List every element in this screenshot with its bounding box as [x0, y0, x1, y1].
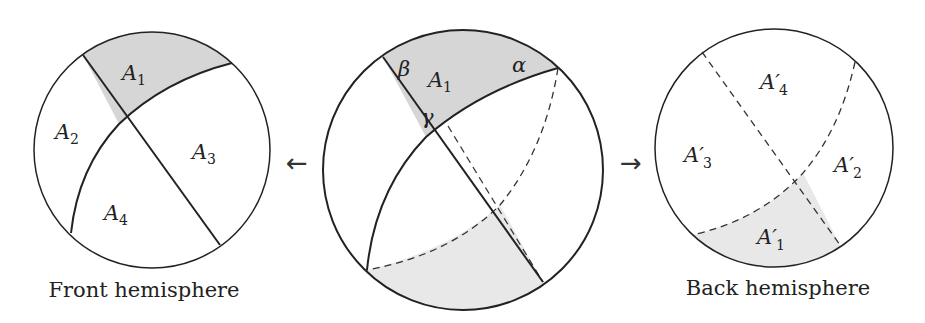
angle-beta-label: β [397, 57, 410, 81]
svg-text:2: 2 [70, 131, 79, 147]
svg-text:A′: A′ [832, 153, 854, 177]
svg-text:A′: A′ [755, 225, 777, 249]
svg-text:A: A [53, 120, 70, 144]
arrow-right-icon: → [620, 148, 642, 178]
hemisphere-diagram: A 1 A 2 A 3 A 4 Front hemisphere ← β [0, 0, 925, 323]
front-label-a3: A 3 [190, 140, 216, 167]
svg-text:A: A [190, 140, 207, 164]
back-label-a2: A′ 2 [832, 153, 862, 181]
svg-text:2: 2 [853, 165, 862, 181]
svg-text:A: A [102, 201, 119, 225]
sphere-back-region-shading [350, 205, 543, 320]
arrow-left-icon: ← [286, 148, 308, 178]
back-label-a4: A′ 4 [758, 70, 788, 98]
back-label-a3: A′ 3 [682, 143, 712, 171]
svg-text:A′: A′ [682, 143, 704, 167]
front-label-a4: A 4 [102, 201, 128, 228]
front-hemisphere-caption: Front hemisphere [48, 278, 239, 302]
svg-text:1: 1 [137, 72, 146, 88]
front-label-a2: A 2 [53, 120, 79, 147]
svg-text:A: A [120, 61, 137, 85]
angle-alpha-label: α [512, 53, 526, 77]
svg-text:4: 4 [779, 82, 788, 98]
sphere-view: β A 1 α γ [323, 20, 603, 320]
svg-text:4: 4 [119, 212, 128, 228]
svg-text:A′: A′ [758, 70, 780, 94]
svg-text:3: 3 [703, 155, 712, 171]
angle-gamma-label: γ [421, 105, 434, 129]
front-hemisphere: A 1 A 2 A 3 A 4 Front hemisphere [34, 20, 270, 302]
svg-text:A: A [426, 68, 443, 92]
svg-text:3: 3 [207, 151, 216, 167]
svg-text:1: 1 [776, 237, 785, 253]
back-hemisphere: A′ 4 A′ 3 A′ 2 A′ 1 Back hemisphere [655, 29, 893, 300]
svg-text:1: 1 [443, 79, 452, 95]
back-hemisphere-caption: Back hemisphere [686, 276, 870, 300]
